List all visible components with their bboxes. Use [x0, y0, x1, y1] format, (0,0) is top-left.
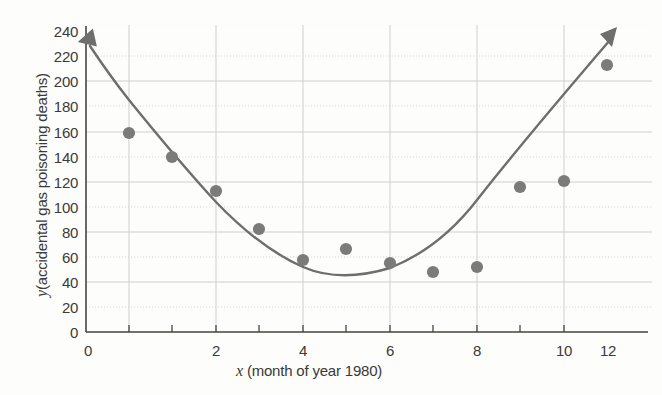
- data-point: [210, 185, 222, 197]
- data-point: [297, 254, 309, 266]
- data-point: [514, 181, 526, 193]
- x-tick-label: 12: [600, 342, 616, 359]
- y-axis-description: (accidental gas poisoning deaths): [33, 73, 50, 290]
- data-points: [123, 59, 613, 278]
- x-axis-title: x (month of year 1980): [236, 362, 382, 380]
- data-point: [340, 243, 352, 255]
- data-point: [166, 151, 178, 163]
- x-tick-label: 6: [386, 342, 394, 359]
- data-point: [384, 257, 396, 269]
- x-tick-label: 8: [473, 342, 481, 359]
- x-axis-description: (month of year 1980): [247, 362, 382, 379]
- data-point: [123, 127, 135, 139]
- data-point: [558, 175, 570, 187]
- x-tick-label: 2: [212, 342, 220, 359]
- data-point: [601, 59, 613, 71]
- x-tick-label: 4: [299, 342, 307, 359]
- chart-plot-area: [0, 0, 662, 395]
- x-tick-label: 0: [84, 342, 92, 359]
- x-tick-label: 10: [556, 342, 572, 359]
- data-point: [253, 223, 265, 235]
- y-axis-variable: y: [33, 290, 50, 297]
- fitted-curve: [78, 25, 617, 275]
- chart-container: 240 220 200 180 160 140 120 100 80 60 40…: [0, 0, 662, 395]
- y-axis-title: y(accidental gas poisoning deaths): [33, 35, 51, 335]
- data-point: [471, 261, 483, 273]
- data-point: [427, 266, 439, 278]
- x-axis-variable: x: [236, 362, 243, 379]
- x-axis-ticks: [129, 325, 564, 332]
